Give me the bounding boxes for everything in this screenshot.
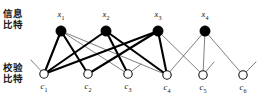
variable-node-x4: [200, 26, 210, 36]
check-node-c1-label: c1: [41, 81, 48, 93]
check-node-c5-label: c5: [200, 82, 207, 94]
check-node-c2-label: c2: [85, 81, 92, 93]
check-node-c4-label: c4: [164, 82, 171, 94]
variable-node-x3-label: x3: [155, 9, 162, 21]
edges-group: [44, 31, 243, 75]
tanner-graph-figure: 信息 比特 校验 比特 x1x2x3x4c1c2c3c4c5c6: [0, 0, 267, 100]
variable-node-x2: [101, 26, 111, 36]
check-node-c6: [239, 71, 247, 79]
graph-edge: [205, 31, 243, 75]
variable-node-x4-label: x4: [202, 9, 209, 21]
variable-nodes-group: [56, 26, 210, 36]
variable-node-x2-label: x2: [103, 9, 110, 21]
variable-node-x1-label: x1: [58, 9, 65, 21]
check-node-c2: [84, 70, 92, 78]
graph-edge: [167, 31, 205, 75]
graph-edge: [203, 31, 205, 75]
check-node-c6-label: c6: [240, 82, 247, 94]
check-nodes-group: [40, 70, 247, 79]
check-node-c5: [199, 71, 207, 79]
graph-edge: [44, 31, 158, 74]
check-node-c3: [124, 70, 132, 78]
check-node-c3-label: c3: [125, 81, 132, 93]
dangling-stubs-group: [31, 60, 256, 75]
variable-node-x3: [153, 26, 163, 36]
variable-node-x1: [56, 26, 66, 36]
check-node-c1: [40, 70, 48, 78]
parity-check-bits-label: 校验 比特: [3, 62, 23, 84]
check-node-c4: [163, 71, 171, 79]
information-bits-label: 信息 比特: [3, 8, 23, 30]
graph-edge: [106, 31, 167, 75]
